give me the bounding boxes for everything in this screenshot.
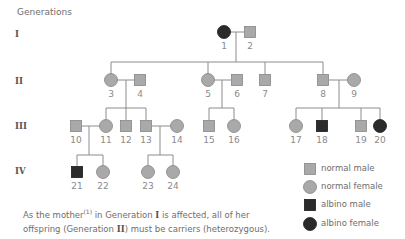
individual-15-male-icon — [204, 121, 215, 132]
caption: As the mother(1) in Generation I is affe… — [23, 205, 270, 236]
individual-9-female-icon — [348, 74, 361, 87]
individual-12-male-icon — [121, 121, 132, 132]
caption-line-2: offspring (Generation II) must be carrie… — [23, 222, 270, 236]
individual-number: 16 — [228, 135, 240, 145]
legend-normal-female: normal female — [321, 181, 383, 191]
individual-number: 13 — [140, 135, 151, 145]
individual-7-male-icon — [260, 75, 271, 86]
individual-number: 11 — [100, 135, 111, 145]
individual-number: 8 — [320, 89, 326, 99]
individual-19-male-icon — [356, 121, 367, 132]
individual-1-affected-female-icon — [218, 26, 231, 39]
individual-number: 19 — [355, 135, 367, 145]
individual-21-affected-male-icon — [72, 167, 83, 178]
caption-line-1: As the mother(1) in Generation I is affe… — [23, 205, 270, 222]
individual-number: 4 — [137, 89, 143, 99]
legend-normal-male: normal male — [321, 163, 375, 173]
individual-18-affected-male-icon — [317, 121, 328, 132]
individual-number: 6 — [234, 89, 240, 99]
individual-14-female-icon — [171, 120, 184, 133]
individual-3-female-icon — [105, 74, 118, 87]
individual-number: 5 — [205, 89, 211, 99]
individual-number: 24 — [167, 181, 179, 191]
individual-4-male-icon — [135, 75, 146, 86]
footnote-marker: (1) — [84, 208, 93, 215]
individual-number: 18 — [316, 135, 328, 145]
individual-6-male-icon — [232, 75, 243, 86]
legend-1-female-icon — [304, 181, 317, 194]
legend-2-affected-male-icon — [305, 200, 316, 211]
individual-2-male-icon — [245, 27, 256, 38]
individual-number: 9 — [351, 89, 357, 99]
individual-8-male-icon — [318, 75, 329, 86]
individual-22-female-icon — [97, 166, 110, 179]
individual-5-female-icon — [202, 74, 215, 87]
legend-albino-female: albino female — [321, 218, 379, 228]
individual-number: 14 — [171, 135, 183, 145]
individual-number: 2 — [247, 41, 253, 51]
individual-number: 20 — [374, 135, 386, 145]
individual-number: 3 — [108, 89, 114, 99]
individual-13-male-icon — [141, 121, 152, 132]
individual-number: 23 — [142, 181, 153, 191]
individual-number: 12 — [120, 135, 131, 145]
individual-number: 15 — [203, 135, 214, 145]
individual-16-female-icon — [228, 120, 241, 133]
legend-3-affected-female-icon — [304, 218, 317, 231]
individual-number: 17 — [290, 135, 301, 145]
individual-number: 7 — [262, 89, 268, 99]
individual-24-female-icon — [167, 166, 180, 179]
legend-albino-male: albino male — [321, 199, 371, 209]
individual-23-female-icon — [142, 166, 155, 179]
individual-20-affected-female-icon — [374, 120, 387, 133]
individual-number: 1 — [221, 41, 227, 51]
individual-11-female-icon — [100, 120, 113, 133]
individual-number: 22 — [97, 181, 108, 191]
individual-17-female-icon — [290, 120, 303, 133]
individual-number: 10 — [70, 135, 82, 145]
pedigree-chart: Generations I II III IV 1234567891011121… — [0, 0, 405, 239]
individual-10-male-icon — [71, 121, 82, 132]
individual-number: 21 — [71, 181, 82, 191]
legend-0-male-icon — [305, 164, 316, 175]
